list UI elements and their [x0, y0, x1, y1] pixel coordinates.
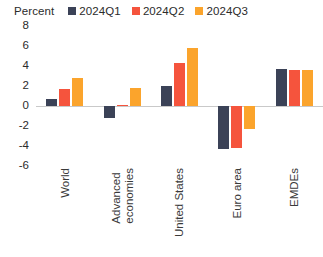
legend-entry-2024q2: 2024Q2: [132, 5, 185, 17]
bar-2024q1-advanced-economies: [104, 106, 115, 118]
bar-group: [93, 26, 150, 166]
bar-group: [36, 26, 93, 166]
bar-2024q2-euro-area: [231, 106, 242, 148]
y-tick-label: 6: [23, 40, 29, 52]
bar-2024q3-world: [72, 78, 83, 106]
x-tick-label: Advancedeconomies: [110, 168, 135, 224]
y-tick-label: -6: [19, 160, 29, 172]
x-tick-label-slot: Advancedeconomies: [93, 168, 150, 257]
legend-label: 2024Q3: [206, 5, 248, 17]
bar-2024q3-euro-area: [244, 106, 255, 129]
legend-swatch-icon: [68, 7, 76, 15]
legend-entry-2024q3: 2024Q3: [195, 5, 248, 17]
y-tick-label: -4: [19, 140, 29, 152]
legend-label: 2024Q1: [79, 5, 121, 17]
bar-group: [208, 26, 265, 166]
y-tick-label: -2: [19, 120, 29, 132]
x-tick-label-line: EMDEs: [288, 168, 301, 207]
bar-2024q2-advanced-economies: [117, 105, 128, 106]
bar-2024q2-world: [59, 89, 70, 106]
bar-chart-figure: Percent 2024Q12024Q22024Q3 86420-2-4-6 W…: [0, 0, 323, 257]
legend-swatch-icon: [195, 7, 203, 15]
percent-axis-unit-label: Percent: [14, 5, 54, 17]
x-tick-label-slot: Euro area: [208, 168, 265, 257]
x-tick-label: Euro area: [231, 168, 244, 219]
x-axis: WorldAdvancedeconomiesUnited StatesEuro …: [36, 168, 323, 257]
y-tick-label: 0: [23, 100, 29, 112]
legend-entry-list: 2024Q12024Q22024Q3: [68, 5, 259, 17]
legend-swatch-icon: [132, 7, 140, 15]
x-tick-label-slot: United States: [151, 168, 208, 257]
bar-2024q1-world: [46, 99, 57, 106]
x-tick-label-line: United States: [173, 168, 186, 237]
y-tick-label: 4: [23, 60, 29, 72]
x-tick-label-slot: EMDEs: [266, 168, 323, 257]
bar-2024q1-emdes: [276, 69, 287, 106]
bar-2024q2-emdes: [289, 70, 300, 106]
bar-2024q3-united-states: [187, 48, 198, 106]
bar-group: [266, 26, 323, 166]
legend-label: 2024Q2: [143, 5, 185, 17]
chart-legend: Percent 2024Q12024Q22024Q3: [0, 0, 323, 22]
x-tick-label-line: Advanced: [110, 168, 123, 224]
bar-2024q1-euro-area: [218, 106, 229, 149]
x-tick-label: EMDEs: [288, 168, 301, 207]
bar-2024q2-united-states: [174, 63, 185, 106]
x-tick-label-line: economies: [122, 168, 135, 224]
y-tick-label: 2: [23, 80, 29, 92]
bar-2024q3-advanced-economies: [130, 88, 141, 106]
bar-2024q1-united-states: [161, 86, 172, 106]
x-tick-label: United States: [173, 168, 186, 237]
y-axis: 86420-2-4-6: [0, 26, 34, 166]
x-tick-label: World: [58, 168, 71, 198]
plot-area: [36, 26, 323, 166]
y-tick-label: 8: [23, 20, 29, 32]
x-tick-label-line: World: [58, 168, 71, 198]
x-tick-label-slot: World: [36, 168, 93, 257]
legend-entry-2024q1: 2024Q1: [68, 5, 121, 17]
bar-group: [151, 26, 208, 166]
x-tick-label-line: Euro area: [231, 168, 244, 219]
bar-2024q3-emdes: [302, 70, 313, 106]
